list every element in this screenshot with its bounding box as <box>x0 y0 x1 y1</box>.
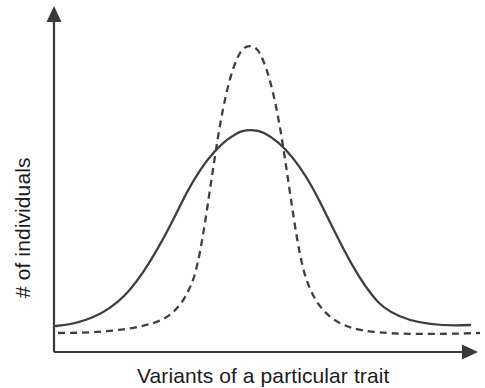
solid-distribution-curve <box>56 130 470 326</box>
x-axis-arrowhead <box>462 345 478 360</box>
dashed-distribution-curve <box>58 46 480 334</box>
x-axis-label: Variants of a particular trait <box>137 364 389 388</box>
y-axis-label: # of individuals <box>8 38 38 298</box>
y-axis-arrowhead <box>47 6 62 22</box>
